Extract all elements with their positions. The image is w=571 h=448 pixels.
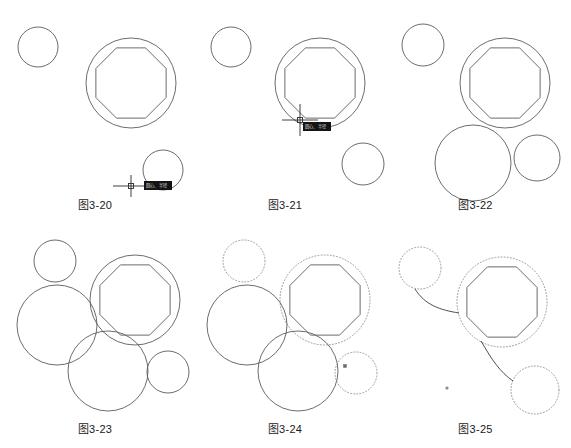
point-marker-1	[445, 386, 448, 389]
octagon[interactable]	[100, 265, 170, 335]
octagon[interactable]	[467, 267, 537, 337]
small-circle-right[interactable]	[514, 135, 560, 181]
crosshair-cursor[interactable]: 圆心、半径	[282, 104, 331, 136]
cursor-tooltip-label: 圆心、半径	[146, 182, 167, 189]
figure-caption-fig-3-25: 图3-25	[380, 420, 571, 436]
outer-circle[interactable]	[275, 38, 365, 128]
panel-fig-3-20: 圆心、半径	[18, 27, 183, 197]
cad-drawing-canvas: 圆心、半径圆心、半径	[0, 0, 571, 448]
figure-sheet: 圆心、半径圆心、半径图3-20图3-21图3-22图3-23图3-24图3-25	[0, 0, 571, 448]
big-circle-bottom[interactable]	[68, 331, 148, 411]
big-circle-left[interactable]	[17, 285, 97, 365]
figure-caption-fig-3-20: 图3-20	[0, 196, 190, 212]
small-circle-top-left[interactable]	[402, 24, 444, 66]
panel-fig-3-22	[402, 24, 560, 201]
panel-fig-3-25	[399, 247, 559, 414]
small-circle-bottom-right[interactable]	[511, 366, 559, 414]
small-circle-right[interactable]	[147, 351, 189, 393]
big-circle-bottom[interactable]	[258, 331, 338, 411]
crosshair-cursor[interactable]: 圆心、半径	[113, 175, 172, 197]
outer-circle[interactable]	[86, 38, 176, 128]
octagon[interactable]	[470, 48, 540, 118]
big-circle-bottom[interactable]	[435, 125, 511, 201]
small-circle-top[interactable]	[223, 240, 265, 282]
panel-fig-3-24	[207, 240, 377, 411]
small-circle-top-left[interactable]	[18, 27, 58, 67]
outer-circle[interactable]	[457, 257, 547, 347]
cursor-tooltip-label: 圆心、半径	[305, 123, 326, 130]
big-circle-left[interactable]	[207, 285, 287, 365]
small-circle-bottom-right[interactable]	[342, 143, 384, 185]
small-circle-right[interactable]	[335, 352, 377, 394]
small-circle-top[interactable]	[399, 247, 441, 289]
small-circle-top-left[interactable]	[211, 27, 251, 67]
figure-caption-fig-3-23: 图3-23	[0, 420, 190, 436]
small-circle-top[interactable]	[34, 240, 76, 282]
figure-caption-fig-3-22: 图3-22	[380, 196, 571, 212]
panel-fig-3-21: 圆心、半径	[211, 27, 384, 185]
figure-caption-fig-3-21: 图3-21	[190, 196, 380, 212]
figure-caption-fig-3-24: 图3-24	[190, 420, 380, 436]
outer-circle[interactable]	[460, 38, 550, 128]
tangent-arc-1[interactable]	[415, 289, 459, 313]
panel-fig-3-23	[17, 240, 189, 411]
octagon[interactable]	[285, 48, 355, 118]
grip-marker-1[interactable]	[344, 365, 347, 368]
octagon[interactable]	[96, 48, 166, 118]
octagon[interactable]	[290, 265, 360, 335]
